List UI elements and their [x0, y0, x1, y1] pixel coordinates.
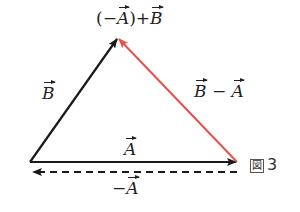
figure-caption: 図3 [250, 155, 277, 174]
figure-number: 3 [267, 155, 277, 174]
label-a-vec: A [232, 83, 244, 100]
label-minus: − [112, 178, 126, 198]
label-a-vec: A [126, 180, 138, 197]
label-minus: − [207, 81, 232, 101]
vector-diagram [0, 0, 300, 212]
label-a-vec: A [124, 141, 136, 158]
label-prefix: (− [96, 8, 117, 28]
label-a: A [124, 141, 136, 158]
figure-glyph: 図 [250, 159, 264, 173]
label-b-minus-a: B − A [194, 83, 244, 100]
label-vec-b: B [150, 10, 163, 27]
label-vec-a: A [117, 10, 129, 27]
label-mid: )+ [129, 8, 150, 28]
label-b: B [42, 85, 55, 102]
label-b-vec: B [42, 85, 55, 102]
label-neg-a: −A [112, 180, 139, 197]
label-neg-a-plus-b: (−A)+B [96, 10, 163, 27]
label-b-vec: B [194, 83, 207, 100]
